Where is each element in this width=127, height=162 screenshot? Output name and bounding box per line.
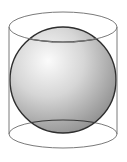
sphere-in-cylinder-diagram — [0, 0, 127, 162]
cylinder-bottom-ellipse-front-arc — [9, 134, 117, 148]
sphere — [10, 27, 116, 133]
cylinder-top-ellipse-back-arc — [9, 12, 117, 27]
